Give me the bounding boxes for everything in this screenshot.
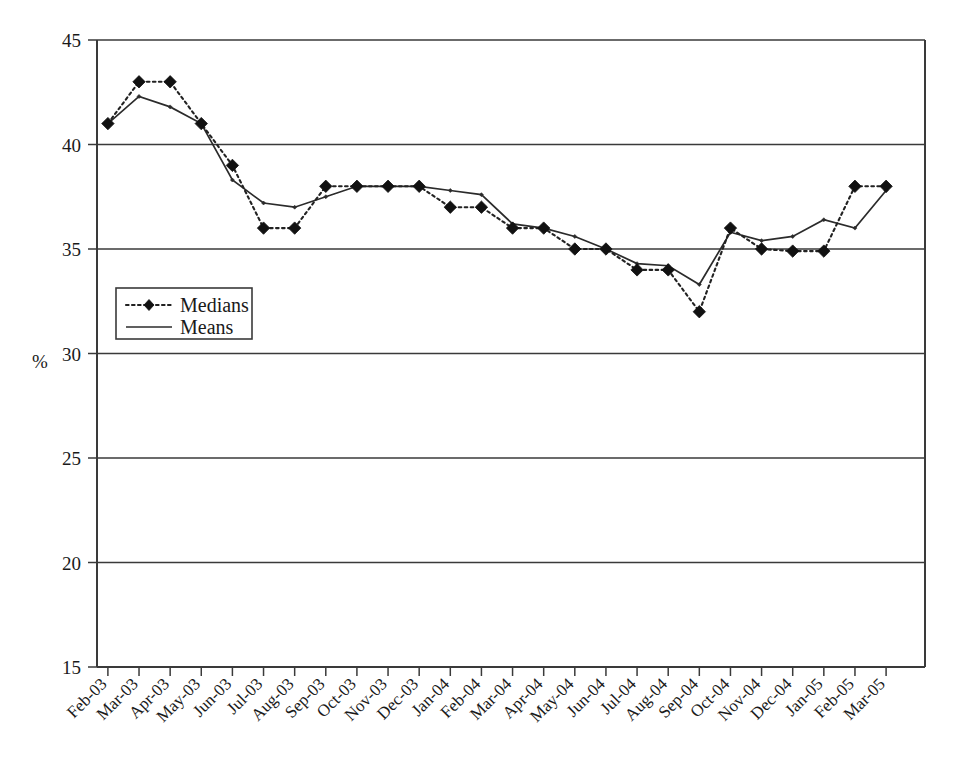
y-tick-label-35: 35 (62, 239, 81, 260)
y-tick-label-40: 40 (62, 135, 81, 156)
line-chart: 15202530354045 Feb-03Mar-03Apr-03May-03J… (0, 0, 959, 774)
y-tick-label-45: 45 (62, 30, 81, 51)
chart-background (0, 0, 959, 774)
y-tick-label-25: 25 (62, 448, 81, 469)
y-tick-label-15: 15 (62, 657, 81, 678)
legend-label-medians: Medians (180, 294, 249, 316)
legend-label-means: Means (180, 316, 234, 338)
chart-legend: Medians Means (116, 288, 252, 339)
y-axis-title: % (32, 351, 48, 372)
chart-container: 15202530354045 Feb-03Mar-03Apr-03May-03J… (0, 0, 959, 774)
y-tick-label-30: 30 (62, 344, 81, 365)
y-tick-label-20: 20 (62, 553, 81, 574)
